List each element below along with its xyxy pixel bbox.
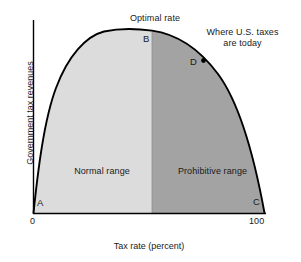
x-tick-0: 0 xyxy=(30,216,35,227)
x-tick-100: 100 xyxy=(249,216,264,227)
normal-range-region xyxy=(34,29,153,213)
laffer-curve-figure: Government tax revenues Tax rate (percen… xyxy=(0,0,301,262)
us-taxes-today-annotation: Where U.S. taxes are today xyxy=(205,27,280,49)
optimal-rate-annotation: Optimal rate xyxy=(110,13,200,24)
normal-range-label: Normal range xyxy=(57,166,147,177)
y-axis-title: Government tax revenues xyxy=(25,33,35,193)
x-axis-title: Tax rate (percent) xyxy=(33,241,265,251)
prohibitive-range-region xyxy=(152,31,265,213)
prohibitive-range-label: Prohibitive range xyxy=(160,166,265,177)
point-d-label: D xyxy=(190,56,197,67)
point-d-marker xyxy=(201,58,206,63)
point-b-label: B xyxy=(143,33,149,44)
point-c-label: C xyxy=(253,196,260,207)
point-a-label: A xyxy=(37,197,43,208)
